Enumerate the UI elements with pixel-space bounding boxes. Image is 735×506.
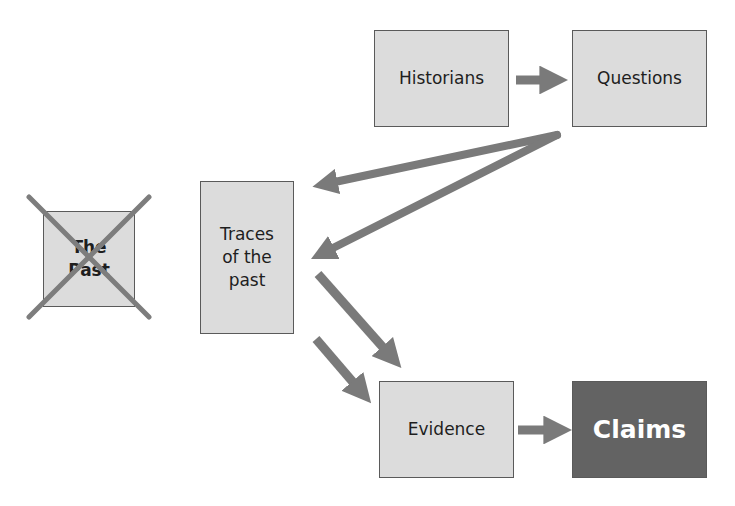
node-historians: Historians [374, 30, 509, 127]
node-evidence: Evidence [379, 381, 514, 478]
node-questions-label: Questions [597, 67, 682, 90]
node-the-past-label: The Past [68, 236, 110, 282]
node-traces-of-the-past: Traces of the past [200, 181, 294, 334]
arrow-traces-to-evidence-upper [318, 274, 388, 353]
arrow-questions-to-traces-lower [327, 135, 557, 251]
node-questions: Questions [572, 30, 707, 127]
node-traces-label: Traces of the past [220, 223, 274, 292]
arrow-questions-to-traces-upper [330, 135, 557, 183]
arrow-traces-to-evidence-lower [316, 339, 358, 388]
node-claims-label: Claims [593, 418, 686, 441]
node-historians-label: Historians [399, 67, 484, 90]
node-claims: Claims [572, 381, 707, 478]
node-the-past: The Past [43, 211, 135, 307]
node-evidence-label: Evidence [408, 418, 485, 441]
